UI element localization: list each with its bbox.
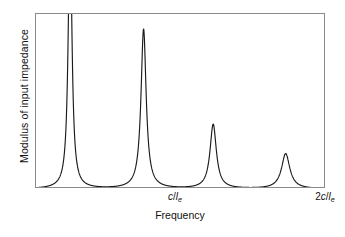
plot-frame (35, 13, 325, 188)
impedance-curve-svg (36, 14, 325, 188)
chart-figure: Modulus of input impedance c/le 2c/le Fr… (0, 0, 345, 237)
tick2-sub: e (331, 195, 335, 204)
x-axis-label: Frequency (155, 209, 205, 221)
y-axis-label: Modulus of input impedance (18, 1, 30, 191)
impedance-curve (36, 14, 325, 188)
x-tick-label-2c-over-le: 2c/le (315, 191, 335, 202)
tick1-sub: e (178, 195, 182, 204)
x-tick-label-c-over-le: c/le (168, 191, 182, 202)
